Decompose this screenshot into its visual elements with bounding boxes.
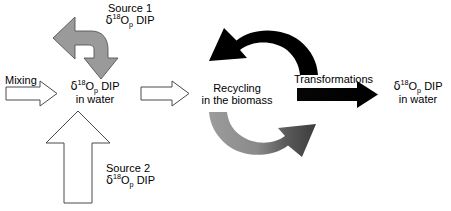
isotope-mass-number: 18 [78, 78, 86, 87]
source1-title: Source 1 [86, 2, 174, 14]
isotope-element: O [86, 80, 95, 92]
source2-arrow [46, 111, 110, 203]
biomass-line-2: in the biomass [196, 94, 278, 106]
isotope-mass-number: 18 [401, 78, 409, 87]
delta-symbol: δ [105, 13, 112, 27]
water-pool-medium: in water [58, 93, 132, 105]
water-pool-isotope-formula: δ18Op DIP [58, 80, 132, 93]
isotope-subscript: p [129, 21, 133, 30]
isotope-mass-number: 18 [113, 173, 121, 182]
pool-to-biomass-arrow [141, 81, 189, 106]
delta-symbol: δ [70, 79, 77, 93]
isotope-mass-number: 18 [113, 13, 121, 22]
recycling-bottom-arc-arrow [209, 112, 316, 157]
transformations-label: Transformations [294, 73, 373, 85]
isotope-species: DIP [101, 80, 119, 92]
output-pool-medium: in water [386, 93, 450, 105]
output-pool-isotope-formula: δ18Op DIP [386, 80, 450, 93]
source1-isotope-formula: δ18Op DIP [86, 14, 174, 27]
isotope-element: O [409, 80, 418, 92]
isotope-element: O [121, 14, 130, 26]
mixing-label: Mixing [5, 74, 37, 86]
isotope-cycle-diagram: Source 1 δ18Op DIP Mixing δ18Op DIP in w… [0, 0, 451, 211]
source2-isotope-formula: δ18Op DIP [106, 174, 194, 187]
output-pool-label: δ18Op DIP in water [386, 80, 450, 105]
delta-symbol: δ [393, 79, 400, 93]
water-pool-label: δ18Op DIP in water [58, 80, 132, 105]
isotope-species: DIP [137, 174, 155, 186]
isotope-element: O [121, 174, 130, 186]
delta-symbol: δ [106, 173, 113, 187]
isotope-species: DIP [424, 80, 442, 92]
source1-label: Source 1 δ18Op DIP [86, 2, 174, 27]
isotope-subscript: p [130, 181, 134, 190]
isotope-species: DIP [136, 14, 154, 26]
source2-label: Source 2 δ18Op DIP [106, 162, 194, 187]
biomass-label: Recycling in the biomass [196, 82, 278, 107]
recycling-top-arc-arrow [209, 28, 318, 75]
biomass-line-1: Recycling [196, 82, 278, 94]
